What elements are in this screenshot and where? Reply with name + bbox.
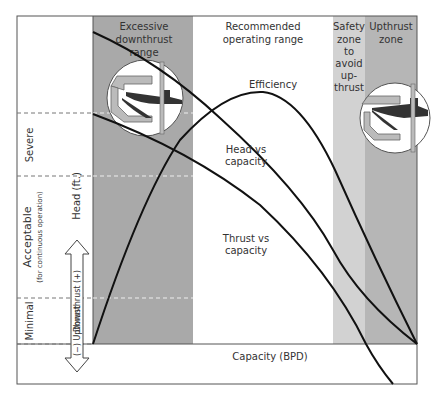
svg-text:Thrust vs: Thrust vs [222, 233, 269, 244]
svg-text:Safety: Safety [333, 21, 365, 32]
severity-acceptable-label: Acceptable [21, 206, 34, 267]
svg-text:downthrust: downthrust [116, 34, 173, 45]
efficiency-label: Efficiency [249, 79, 297, 90]
zone-recommended [193, 16, 333, 344]
svg-text:zone: zone [337, 34, 361, 45]
svg-text:Head vs: Head vs [226, 144, 266, 155]
svg-text:operating range: operating range [223, 34, 304, 45]
svg-text:to: to [344, 46, 354, 57]
y-axis-label: Head (ft.) [71, 172, 82, 220]
svg-text:Excessive: Excessive [120, 21, 169, 32]
thrust-direction-arrow: Downthrust (+) (−) Upthrust [65, 240, 89, 372]
pump-performance-diagram: Excessive downthrust range Recommended o… [0, 0, 443, 400]
severity-acceptable-note: (for continuous operation) [36, 191, 44, 283]
severity-severe-label: Severe [24, 128, 35, 163]
svg-text:avoid: avoid [335, 58, 362, 69]
severity-minimal-label: Minimal [24, 301, 35, 340]
svg-text:capacity: capacity [225, 245, 267, 256]
svg-text:Upthrust: Upthrust [369, 21, 413, 32]
upthrust-label: (−) Upthrust [73, 306, 82, 356]
zone-upthrust [365, 16, 417, 344]
head-curve-label: Head vs capacity [225, 144, 267, 167]
svg-text:capacity: capacity [225, 156, 267, 167]
svg-text:Recommended: Recommended [225, 21, 300, 32]
x-axis-label: Capacity (BPD) [232, 351, 307, 362]
impeller-upthrust-icon [360, 83, 430, 153]
svg-text:thrust: thrust [334, 82, 364, 93]
svg-text:zone: zone [379, 34, 403, 45]
svg-text:up-: up- [341, 70, 358, 81]
thrust-curve-label: Thrust vs capacity [222, 233, 269, 256]
